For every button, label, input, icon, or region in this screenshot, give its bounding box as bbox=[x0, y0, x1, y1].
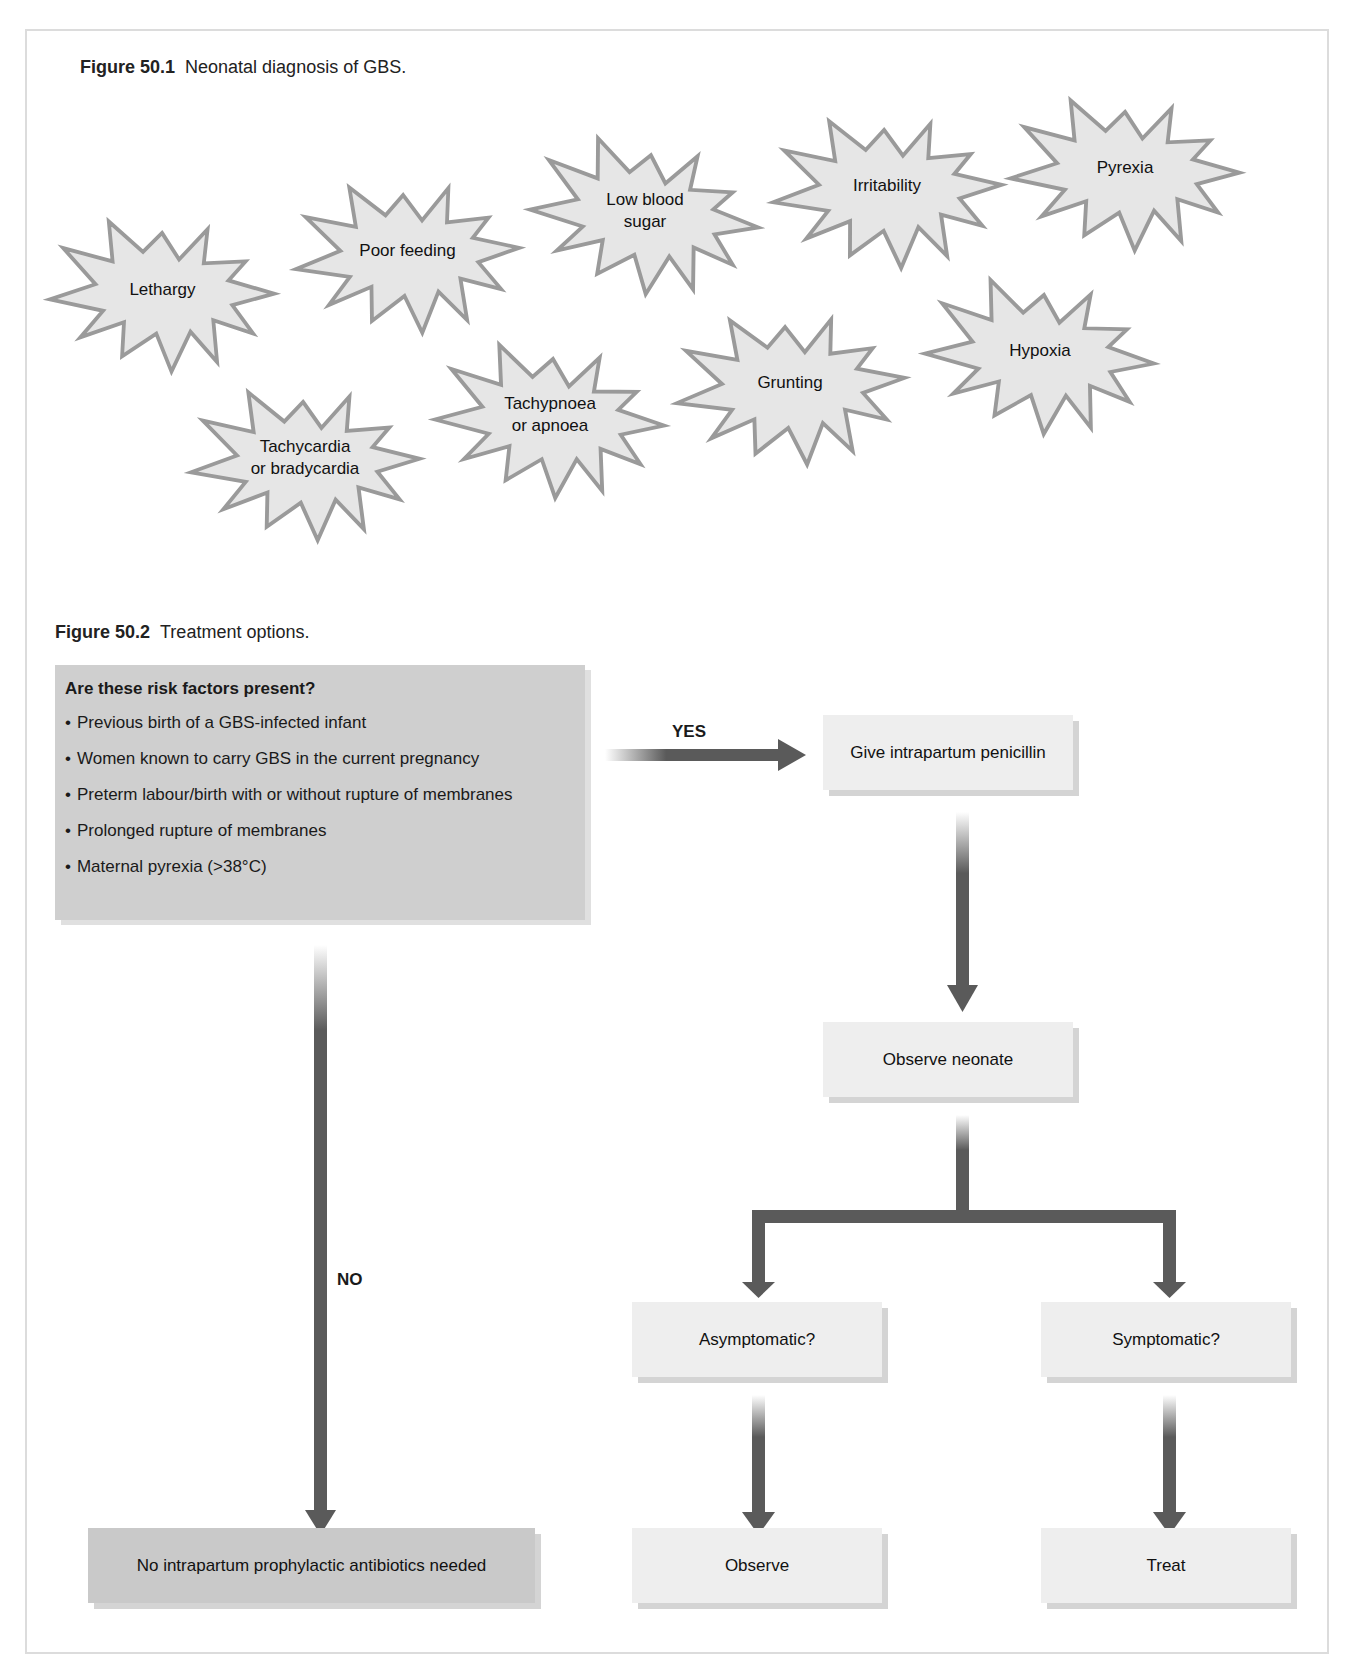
penicillin-to-observe-arrow bbox=[947, 812, 978, 1012]
no-label: NO bbox=[337, 1270, 363, 1290]
yes-arrow bbox=[605, 739, 806, 771]
node-observe: Observe bbox=[632, 1528, 882, 1603]
no-arrow bbox=[305, 945, 336, 1535]
symptomatic-to-treat-arrow bbox=[1153, 1395, 1186, 1535]
node-asymptomatic: Asymptomatic? bbox=[632, 1302, 882, 1377]
node-no-antibiotics: No intrapartum prophylactic antibiotics … bbox=[88, 1528, 535, 1603]
node-symptomatic: Symptomatic? bbox=[1041, 1302, 1291, 1377]
node-observe-neonate: Observe neonate bbox=[823, 1022, 1073, 1097]
node-give-penicillin: Give intrapartum penicillin bbox=[823, 715, 1073, 790]
node-treat: Treat bbox=[1041, 1528, 1291, 1603]
branch-arrow bbox=[742, 1115, 1186, 1298]
asymptomatic-to-observe-arrow bbox=[742, 1395, 775, 1535]
yes-label: YES bbox=[672, 722, 706, 742]
flow-arrows bbox=[0, 0, 1355, 1659]
